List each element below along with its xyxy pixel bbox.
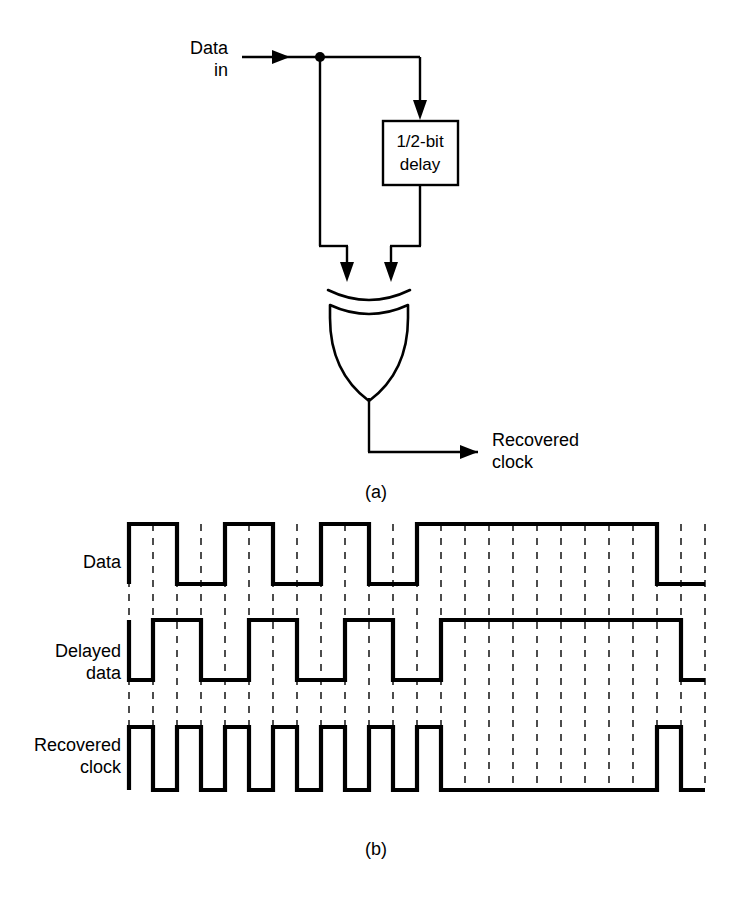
data-trace [129,524,705,584]
recovered-clock-label-line2: clock [492,452,534,472]
timing-row-label-delayed-line2: data [86,663,122,683]
timing-row-label-data: Data [83,552,122,572]
clock-recovery-figure: Data in 1/2-bit delay [0,0,752,898]
waveform-recovered-clock [129,727,705,790]
gate-input-b-arrowhead-icon [384,262,398,282]
output-arrowhead-icon [460,445,478,459]
figure-root: Data in 1/2-bit delay [0,0,752,898]
data-in-label-line2: in [214,60,228,80]
timing-diagram-group: Data Delayed data Recovered clock (b) [34,524,705,859]
input-arrowhead-icon [272,50,290,64]
caption-b: (b) [365,839,387,859]
recovered-clock-trace [129,727,705,790]
gate-input-a-arrowhead-icon [340,262,354,282]
delay-input-arrowhead-icon [413,100,427,120]
timing-row-label-clock-line1: Recovered [34,735,121,755]
delay-block-label-line2: delay [400,155,441,174]
half-bit-delay-block [383,121,458,185]
waveform-data [129,524,705,584]
xor-gate-icon [328,290,410,401]
caption-a: (a) [365,482,387,502]
recovered-clock-label-line1: Recovered [492,430,579,450]
timing-row-label-delayed-line1: Delayed [55,641,121,661]
delay-block-label-line1: 1/2-bit [396,132,444,151]
data-in-label-line1: Data [190,38,229,58]
timing-row-label-clock-line2: clock [80,757,122,777]
block-diagram-group: Data in 1/2-bit delay [190,38,579,502]
